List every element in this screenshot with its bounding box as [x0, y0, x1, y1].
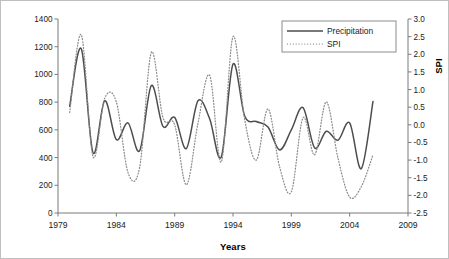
x-axis-tick-label: 2004 — [340, 220, 359, 230]
x-axis-tick-label: 1994 — [223, 220, 242, 230]
x-axis-tick-label: 1999 — [282, 220, 301, 230]
x-axis-tick-label: 1979 — [48, 220, 67, 230]
y-axis-tick-label: 200 — [39, 181, 53, 190]
legend-label-precipitation: Precipitation — [327, 26, 373, 36]
chart-figure: Annual Precip. (Oct-Sep.), mm SPI Years … — [0, 0, 449, 259]
y2-axis-tick-label: -0.5 — [414, 138, 429, 147]
y2-axis-tick-label: 0.5 — [414, 103, 426, 112]
x-axis-tick-label: 2009 — [398, 220, 417, 230]
y-axis-tick-label: 1200 — [34, 43, 53, 52]
y2-axis-tick-label: 0.0 — [414, 121, 426, 130]
y-axis-tick-label: 1400 — [34, 15, 53, 24]
y-axis-tick-label: 1000 — [34, 70, 53, 79]
series-line-spi — [70, 34, 373, 198]
y-axis-tick-label: 400 — [39, 154, 53, 163]
x-axis-tick-label: 1984 — [107, 220, 126, 230]
y2-axis-tick-label: 2.5 — [414, 33, 426, 42]
y2-axis-tick-label: 1.0 — [414, 86, 426, 95]
y2-axis-tick-label: -1.0 — [414, 156, 429, 165]
y2-axis-tick-label: -1.5 — [414, 174, 429, 183]
legend-label-spi: SPI — [327, 39, 341, 49]
y2-axis-tick-label: 3.0 — [414, 15, 426, 24]
y2-axis-tick-label: -2.0 — [414, 191, 429, 200]
y2-axis-tick-label: 1.5 — [414, 68, 426, 77]
y2-axis-tick-label: 2.0 — [414, 50, 426, 59]
y-axis-tick-label: 800 — [39, 98, 53, 107]
x-axis-tick-label: 1989 — [165, 220, 184, 230]
series-line-precipitation — [70, 48, 373, 169]
y2-axis-tick-label: -2.5 — [414, 209, 429, 218]
y-axis-tick-label: 0 — [48, 209, 53, 218]
y-axis-tick-label: 600 — [39, 126, 53, 135]
chart-plot-area: 02004006008001000120014003.02.52.01.51.0… — [1, 1, 449, 259]
